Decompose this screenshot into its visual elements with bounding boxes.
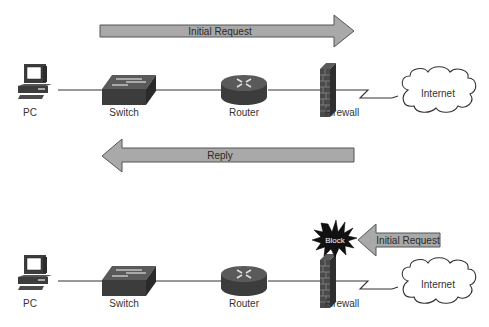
- firewall-label: Firewall: [325, 107, 359, 118]
- block-burst-icon: Block: [312, 220, 357, 257]
- reply-arrow: Reply: [102, 139, 354, 172]
- internet-label: Internet: [421, 279, 455, 290]
- network-diagram: Initial Request PC Switch Router Firewal…: [0, 0, 489, 327]
- bottom-scenario: PC Switch Router Firewall Internet Block…: [18, 220, 476, 309]
- router-label: Router: [229, 298, 260, 309]
- firewall-label: Firewall: [325, 298, 359, 309]
- router-icon: [221, 75, 267, 105]
- initial-request-label: Initial Request: [376, 235, 440, 246]
- switch-label: Switch: [109, 107, 138, 118]
- initial-request-arrow-bottom: Initial Request: [358, 224, 440, 256]
- pc-icon: [18, 64, 52, 99]
- initial-request-arrow-top: Initial Request: [100, 15, 354, 47]
- top-scenario: Initial Request PC Switch Router Firewal…: [18, 15, 476, 172]
- switch-icon: [102, 266, 156, 296]
- pc-label: PC: [23, 107, 37, 118]
- block-label: Block: [325, 236, 346, 245]
- router-icon: [221, 266, 267, 296]
- initial-request-label: Initial Request: [188, 26, 252, 37]
- switch-label: Switch: [109, 298, 138, 309]
- router-label: Router: [229, 107, 260, 118]
- switch-icon: [102, 75, 156, 105]
- reply-label: Reply: [207, 150, 233, 161]
- pc-icon: [18, 255, 52, 290]
- pc-label: PC: [23, 298, 37, 309]
- internet-label: Internet: [421, 88, 455, 99]
